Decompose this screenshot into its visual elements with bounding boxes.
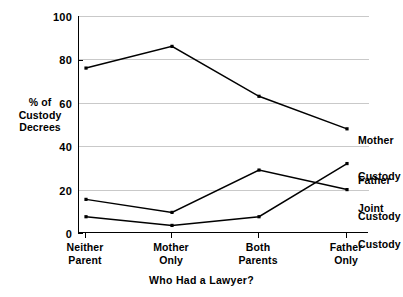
data-point-marker	[345, 127, 348, 130]
x-tick-label-both-parents: Both Parents	[213, 241, 303, 266]
series-label-mother-custody-line-1: Mother	[358, 134, 401, 146]
x-tick-label-neither-parent-line-1: Neither	[40, 241, 130, 254]
x-tick-mark-both-parents	[258, 233, 259, 238]
x-tick-label-mother-only: Mother Only	[126, 241, 216, 266]
y-tick-mark-0	[78, 233, 83, 234]
custody-decrees-line-chart: % of Custody Decrees 100 80 60 40 20 0	[0, 0, 403, 297]
series-line-father-custody	[86, 164, 347, 226]
series-line-mother-custody	[86, 46, 347, 128]
y-tick-label-20: 20	[46, 186, 72, 197]
x-tick-label-mother-only-line-1: Mother	[126, 241, 216, 254]
data-point-marker	[257, 95, 260, 98]
data-point-marker	[170, 45, 173, 48]
data-point-marker	[257, 168, 260, 171]
x-tick-label-both-parents-line-1: Both	[213, 241, 303, 254]
data-point-marker	[170, 211, 173, 214]
y-tick-label-100: 100	[46, 12, 72, 23]
x-tick-label-mother-only-line-2: Only	[126, 254, 216, 267]
data-point-marker	[345, 162, 348, 165]
x-axis-title: Who Had a Lawyer?	[0, 274, 403, 286]
x-tick-label-neither-parent-line-2: Parent	[40, 254, 130, 267]
x-tick-mark-mother-only	[171, 233, 172, 238]
series-line-joint-custody	[86, 170, 347, 212]
y-tick-label-40: 40	[46, 142, 72, 153]
data-point-marker	[170, 224, 173, 227]
series-label-joint-custody-line-1: Joint	[358, 202, 401, 214]
data-point-marker	[257, 215, 260, 218]
y-tick-label-80: 80	[46, 55, 72, 66]
data-point-marker	[84, 66, 87, 69]
y-tick-label-0: 0	[46, 229, 72, 240]
series-label-joint-custody: Joint Custody	[358, 178, 401, 274]
y-axis-tick-labels: 100 80 60 40 20 0	[46, 16, 72, 233]
plot-area	[78, 16, 368, 233]
x-tick-label-neither-parent: Neither Parent	[40, 241, 130, 266]
data-point-marker	[84, 198, 87, 201]
x-tick-mark-father-only	[346, 233, 347, 238]
data-point-marker	[345, 188, 348, 191]
x-tick-label-both-parents-line-2: Parents	[213, 254, 303, 267]
x-tick-mark-neither-parent	[85, 233, 86, 238]
y-tick-label-60: 60	[46, 99, 72, 110]
data-point-marker	[84, 215, 87, 218]
series-lines	[79, 16, 369, 233]
series-label-joint-custody-line-2: Custody	[358, 238, 401, 250]
